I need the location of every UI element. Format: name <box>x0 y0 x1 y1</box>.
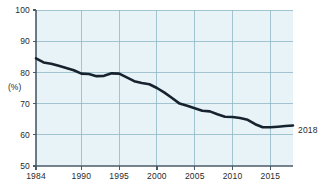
line-chart: 5060708090100 19841990199520002005201020… <box>0 0 323 189</box>
y-axis-unit-label: (%) <box>8 82 21 92</box>
y-tick-label: 80 <box>20 68 30 78</box>
x-tick-label: 1984 <box>26 171 46 181</box>
x-tick-label: 2005 <box>185 171 205 181</box>
y-tick-label: 70 <box>20 99 30 109</box>
y-tick-label: 100 <box>15 5 30 15</box>
plot-area-background <box>36 10 293 166</box>
end-year-annotation: 2018 <box>298 125 318 135</box>
x-tick-label: 1995 <box>109 171 129 181</box>
x-tick-label: 2010 <box>223 171 243 181</box>
y-tick-label: 90 <box>20 36 30 46</box>
x-tick-label: 1990 <box>71 171 91 181</box>
x-tick-label: 2015 <box>260 171 280 181</box>
chart-canvas: 5060708090100 19841990199520002005201020… <box>0 0 323 189</box>
x-tick-label: 2000 <box>147 171 167 181</box>
y-tick-label: 60 <box>20 130 30 140</box>
